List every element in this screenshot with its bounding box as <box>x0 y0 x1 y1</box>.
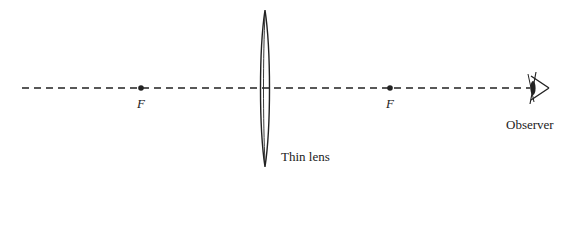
lens-label: Thin lens <box>281 150 330 163</box>
observer-label: Observer <box>506 118 554 131</box>
focal-point-left <box>138 85 144 91</box>
focal-label-left: F <box>137 97 145 110</box>
eye-icon <box>528 72 549 104</box>
focal-point-right <box>387 85 393 91</box>
focal-label-right: F <box>386 97 394 110</box>
